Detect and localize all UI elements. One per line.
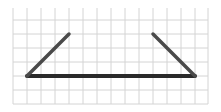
left-slant-line: [27, 34, 69, 76]
right-slant-line: [153, 34, 195, 76]
grid-lines: [13, 8, 208, 104]
grid-diagram: [0, 0, 221, 112]
